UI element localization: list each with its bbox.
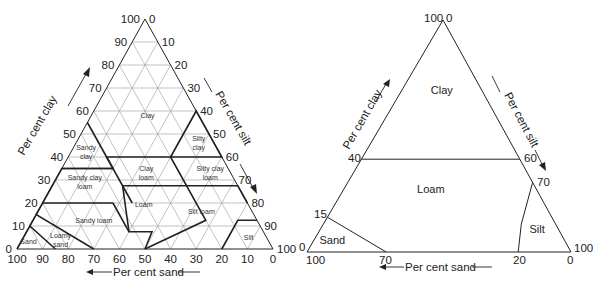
class-label: Clayloam [139, 165, 154, 181]
tick-sand-100: 100 [306, 254, 325, 266]
tick-clay: 80 [102, 59, 115, 71]
tick-silt: 50 [213, 128, 226, 140]
clay-axis-label: Per cent clay [340, 87, 384, 151]
class-label: Sandy clayloam [68, 174, 103, 190]
tick-clay-100: 100 [424, 12, 443, 24]
tick-sand: 0 [270, 253, 276, 265]
tick-sand: 100 [7, 253, 26, 265]
tick-sand-20: 20 [513, 254, 526, 266]
clay-axis-arrow-icon [68, 67, 90, 106]
tick-sand: 80 [62, 253, 75, 265]
tick-clay: 90 [114, 36, 127, 48]
tick-silt: 30 [187, 82, 200, 94]
tick-clay: 30 [38, 174, 51, 186]
class-boundary [145, 186, 206, 249]
tick-clay-15: 15 [314, 208, 327, 220]
tick-silt: 10 [162, 36, 175, 48]
tick-sand: 50 [139, 253, 152, 265]
tick-clay: 40 [50, 151, 63, 163]
tick-clay-0: 0 [299, 241, 305, 253]
tick-sand: 60 [113, 253, 126, 265]
class-label: Silty clayloam [196, 165, 224, 181]
tick-silt: 20 [175, 59, 188, 71]
tick-sand: 90 [36, 253, 49, 265]
class-label: Loamysand [50, 232, 72, 248]
tick-silt-70: 70 [537, 176, 550, 188]
detailed-texture-triangle: 0001010102020203030304040405050506060607… [6, 13, 297, 278]
soil-texture-diagrams: 0001010102020203030304040405050506060607… [0, 0, 597, 287]
tick-sand-0: 0 [567, 254, 573, 266]
tick-silt: 0 [149, 13, 155, 25]
sand-axis-label: Per cent sand [113, 266, 184, 278]
class-label: Sand [20, 238, 36, 245]
tick-sand: 30 [190, 253, 203, 265]
grid-lines [30, 42, 260, 249]
class-label: Sandyclay [76, 144, 96, 161]
clay-axis-label: Per cent clay [15, 93, 59, 157]
tick-clay: 60 [76, 105, 89, 117]
tick-sand: 40 [164, 253, 177, 265]
tick-silt: 80 [251, 197, 264, 209]
tick-clay: 20 [25, 197, 38, 209]
class-label: Silt [529, 223, 544, 235]
class-boundary [518, 182, 532, 252]
tick-silt-100: 100 [574, 242, 593, 254]
class-label: Clay [141, 112, 156, 120]
grid-line-silt [145, 134, 209, 249]
class-label: Silt loam [188, 208, 215, 215]
silt-axis-label: Per cent silt [502, 90, 541, 149]
tick-clay: 100 [121, 13, 140, 25]
class-label: Loam [135, 201, 153, 208]
tick-silt-60: 60 [524, 152, 537, 164]
tick-silt: 40 [200, 105, 213, 117]
tick-sand: 70 [87, 253, 100, 265]
tick-clay: 70 [89, 82, 102, 94]
class-boundaries [327, 159, 532, 252]
tick-clay-40: 40 [348, 152, 361, 164]
class-label: Siltyclay [192, 135, 206, 152]
tick-silt: 60 [226, 151, 239, 163]
grid-line-sand [132, 42, 247, 249]
simplified-texture-triangle: ClayLoamSandSilt 100 0 40 15 0 60 70 100… [299, 12, 593, 273]
tick-silt: 90 [264, 220, 277, 232]
class-label: Sand [319, 234, 345, 246]
class-label: Clay [431, 84, 454, 96]
tick-clay: 10 [12, 220, 25, 232]
tick-sand: 10 [241, 253, 254, 265]
sand-axis-label: Per cent sand [405, 261, 476, 273]
tick-sand: 20 [215, 253, 228, 265]
tick-clay: 50 [63, 128, 76, 140]
tick-silt: 100 [277, 243, 296, 255]
tick-silt-0: 0 [446, 12, 452, 24]
tick-silt: 70 [239, 174, 252, 186]
class-label: Loam [417, 183, 445, 195]
class-label: Silt [244, 234, 254, 241]
class-label: Sandy loam [75, 217, 112, 225]
tick-sand-70: 70 [379, 254, 392, 266]
